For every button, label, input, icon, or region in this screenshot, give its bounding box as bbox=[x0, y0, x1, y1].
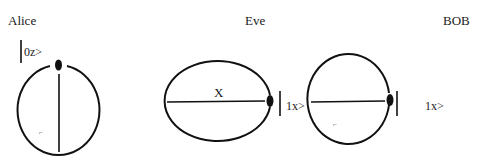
bob-state-circle: ⌐ bbox=[307, 54, 397, 144]
bob-state-dot bbox=[387, 94, 394, 106]
alice-state-circle: 0z> ⌐ bbox=[17, 40, 99, 155]
bob-circle-arc bbox=[307, 54, 389, 144]
eve-axis-label: X bbox=[214, 85, 224, 100]
alice-ket-label: 0z> bbox=[24, 45, 42, 59]
eve-state-dot bbox=[267, 95, 274, 107]
eve-horizontal-axis bbox=[167, 101, 265, 102]
quantum-eavesdrop-diagram: Alice Eve BOB 0z> ⌐ X 1x> ⌐ 1x> bbox=[0, 0, 483, 163]
eve-state-ellipse: X bbox=[165, 61, 280, 141]
eve-to-bob-ket-label: 1x> bbox=[286, 99, 305, 113]
alice-label: Alice bbox=[8, 13, 36, 28]
bob-right-ket-label: 1x> bbox=[425, 99, 444, 113]
alice-small-mark: ⌐ bbox=[39, 129, 43, 137]
eve-label: Eve bbox=[245, 13, 265, 28]
alice-state-dot bbox=[55, 60, 62, 71]
bob-small-mark: ⌐ bbox=[333, 121, 337, 129]
bob-label: BOB bbox=[443, 13, 470, 28]
bob-horizontal-axis bbox=[311, 101, 385, 102]
